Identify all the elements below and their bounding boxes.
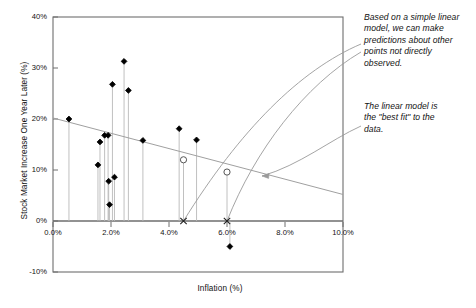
x-tick-label: 8.0% [265, 228, 305, 237]
x-tick-label: 6.0% [207, 228, 247, 237]
x-tick-label: 10.0% [323, 228, 363, 237]
y-tick-label: 0% [13, 216, 47, 225]
y-tick-label: 40% [13, 12, 47, 21]
y-tick-label: -10% [13, 267, 47, 276]
annotation-bestfit-note: The linear model is the "best fit" to th… [364, 101, 464, 135]
y-axis-title: Stock Market Increase One Year Later (%) [20, 51, 29, 231]
x-axis-title: Inflation (%) [150, 284, 290, 293]
annotation-prediction-note: Based on a simple linear model, we can m… [364, 12, 468, 69]
y-tick-label: 20% [13, 114, 47, 123]
x-tick-label: 4.0% [149, 228, 189, 237]
x-tick-label: 0.0% [33, 228, 73, 237]
y-tick-label: 10% [13, 165, 47, 174]
y-tick-label: 30% [13, 63, 47, 72]
x-tick-label: 2.0% [91, 228, 131, 237]
